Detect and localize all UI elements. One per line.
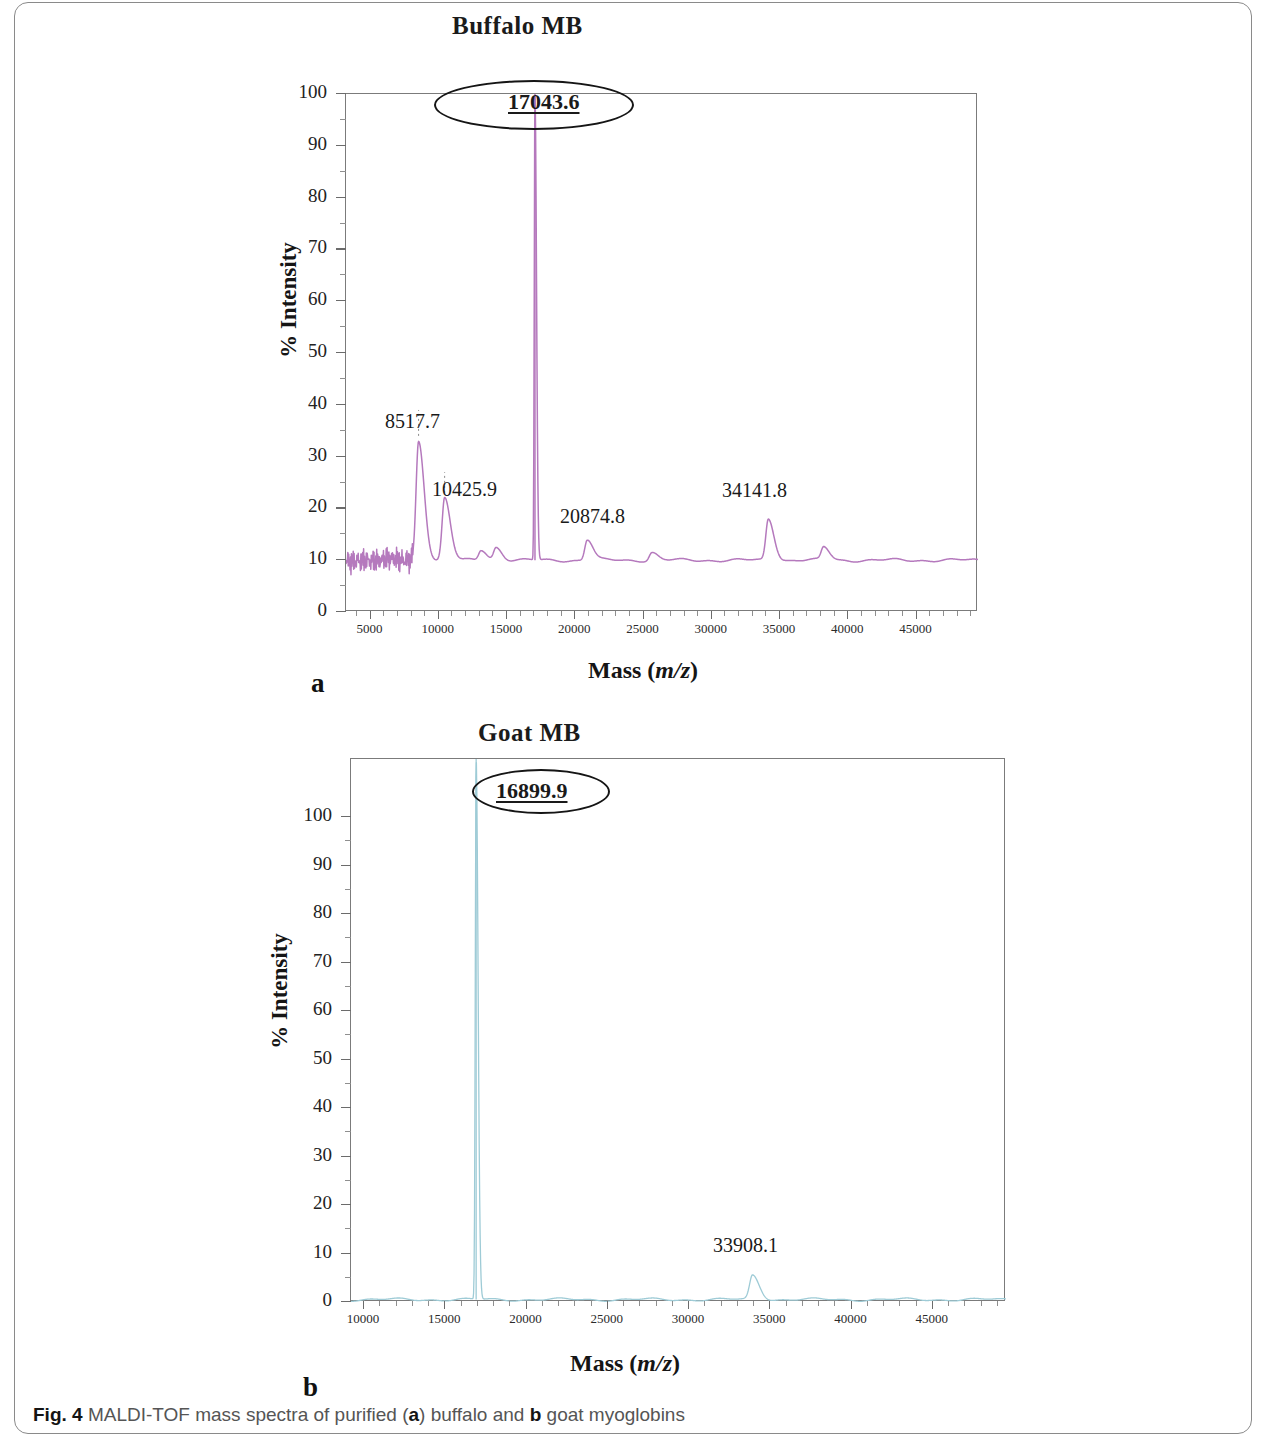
y-tick-label: 80 (265, 185, 327, 207)
y-tick-mark (341, 1301, 351, 1302)
y-tick-mark (341, 913, 351, 914)
x-tick-minor (818, 1301, 819, 1306)
panel-a-peak-label-20874: 20874.8 (560, 505, 625, 528)
y-tick-mark (341, 1156, 351, 1157)
y-tick-label: 100 (270, 804, 332, 826)
x-tick-minor (479, 611, 480, 616)
y-tick-mark (336, 404, 346, 405)
y-tick-minor (340, 378, 346, 379)
x-tick-minor (943, 611, 944, 616)
y-tick-mark (341, 865, 351, 866)
x-tick-minor (520, 611, 521, 616)
panel-b-spectrum-trace (351, 759, 1006, 1302)
caption-text-1: MALDI-TOF mass spectra of purified ( (88, 1404, 409, 1425)
x-tick-minor (888, 611, 889, 616)
x-tick-mark (574, 611, 575, 619)
x-tick-minor (574, 1301, 575, 1306)
x-tick-minor (704, 1301, 705, 1306)
y-tick-mark (341, 1253, 351, 1254)
x-tick-minor (493, 1301, 494, 1306)
y-tick-label: 10 (270, 1241, 332, 1263)
y-tick-minor (345, 1228, 351, 1229)
x-tick-minor (793, 611, 794, 616)
y-tick-mark (341, 962, 351, 963)
x-tick-minor (883, 1301, 884, 1306)
y-tick-label: 60 (270, 998, 332, 1020)
x-tick-minor (561, 611, 562, 616)
x-tick-minor (875, 611, 876, 616)
x-tick-label: 45000 (892, 1311, 972, 1327)
y-tick-label: 40 (265, 392, 327, 414)
x-tick-minor (834, 611, 835, 616)
y-tick-label: 10 (265, 547, 327, 569)
x-tick-minor (753, 1301, 754, 1306)
x-tick-minor (721, 1301, 722, 1306)
x-tick-minor (451, 611, 452, 616)
panel-a-peak-label-10425: 10425.9 (432, 478, 497, 501)
panel-a-title: Buffalo MB (452, 12, 583, 40)
x-tick-mark (769, 1301, 770, 1309)
y-tick-label: 90 (270, 853, 332, 875)
y-tick-mark (336, 611, 346, 612)
x-tick-mark (711, 611, 712, 619)
x-tick-minor (396, 1301, 397, 1306)
x-tick-minor (802, 1301, 803, 1306)
y-tick-mark (336, 197, 346, 198)
x-tick-mark (643, 611, 644, 619)
x-tick-mark (851, 1301, 852, 1309)
y-tick-mark (336, 93, 346, 94)
y-tick-mark (336, 559, 346, 560)
x-tick-minor (684, 611, 685, 616)
figure-maldi-tof-spectra: Buffalo MB % Intensity 01020304050607080… (0, 0, 1264, 1449)
x-tick-mark (847, 611, 848, 619)
x-tick-minor (656, 611, 657, 616)
panel-a-x-axis-label-close: ) (690, 657, 698, 683)
x-tick-minor (383, 611, 384, 616)
x-tick-label: 25000 (567, 1311, 647, 1327)
panel-a-plot-area (345, 93, 977, 611)
x-tick-minor (477, 1301, 478, 1306)
y-tick-label: 20 (270, 1192, 332, 1214)
y-tick-label: 50 (270, 1047, 332, 1069)
y-tick-mark (341, 1107, 351, 1108)
x-tick-mark (363, 1301, 364, 1309)
y-tick-mark (341, 1204, 351, 1205)
y-tick-mark (341, 1059, 351, 1060)
figure-caption: Fig. 4 MALDI-TOF mass spectra of purifie… (33, 1404, 1213, 1426)
x-tick-minor (623, 1301, 624, 1306)
x-tick-minor (902, 611, 903, 616)
y-tick-label: 60 (265, 288, 327, 310)
x-tick-minor (948, 1301, 949, 1306)
y-tick-minor (340, 430, 346, 431)
x-tick-minor (379, 1301, 380, 1306)
panel-a-x-axis-label-main: Mass ( (588, 657, 655, 683)
x-tick-minor (752, 611, 753, 616)
x-tick-minor (424, 611, 425, 616)
x-tick-minor (588, 611, 589, 616)
x-tick-mark (438, 611, 439, 619)
x-tick-mark (607, 1301, 608, 1309)
y-tick-minor (340, 223, 346, 224)
x-tick-minor (428, 1301, 429, 1306)
y-tick-label: 50 (265, 340, 327, 362)
panel-b-x-axis-label: Mass (m/z) (570, 1350, 680, 1377)
y-tick-mark (336, 248, 346, 249)
y-tick-minor (340, 119, 346, 120)
x-tick-minor (899, 1301, 900, 1306)
y-tick-label: 70 (265, 236, 327, 258)
y-tick-minor (345, 937, 351, 938)
y-tick-minor (345, 1131, 351, 1132)
x-tick-minor (615, 611, 616, 616)
x-tick-minor (591, 1301, 592, 1306)
panel-b-x-axis-label-main: Mass ( (570, 1350, 637, 1376)
panel-a-peak-label-34141: 34141.8 (722, 479, 787, 502)
x-tick-minor (765, 611, 766, 616)
y-tick-label: 90 (265, 133, 327, 155)
x-tick-mark (688, 1301, 689, 1309)
y-tick-mark (336, 300, 346, 301)
x-tick-minor (820, 611, 821, 616)
x-tick-label: 35000 (729, 1311, 809, 1327)
panel-a-peak-label-8517: 8517.7 (385, 410, 440, 433)
y-tick-mark (341, 816, 351, 817)
x-tick-minor (547, 611, 548, 616)
